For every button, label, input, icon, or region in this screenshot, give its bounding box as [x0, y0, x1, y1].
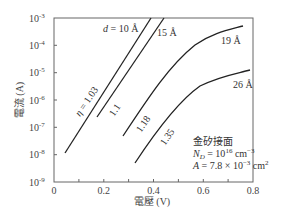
- x-axis-title: 電壓 (V): [134, 196, 170, 208]
- svg-text:10-3: 10-3: [29, 12, 45, 24]
- area-label: A = 7.8 × 10−3 cm2: [192, 159, 269, 171]
- y-tick-labels: 10-3 10-4 10-5 10-6 10-7 10-8 10-9: [29, 12, 45, 188]
- label-d10: d = 10 Å: [103, 23, 139, 34]
- thickness-labels: d = 10 Å 15 Å 19 Å 26 Å: [103, 23, 254, 90]
- label-d15: 15 Å: [157, 27, 178, 38]
- label-eta11: 1.1: [107, 102, 123, 119]
- label-d26: 26 Å: [233, 79, 254, 90]
- label-d19: 19 Å: [221, 35, 242, 46]
- junction-label: 金矽接面: [193, 135, 233, 147]
- svg-text:10-6: 10-6: [29, 94, 45, 106]
- y-axis-title: 電流 (A): [13, 82, 26, 118]
- label-eta135: 1.35: [158, 126, 177, 147]
- svg-text:0: 0: [52, 185, 57, 196]
- svg-text:0.8: 0.8: [247, 185, 260, 196]
- svg-text:10-9: 10-9: [29, 176, 45, 188]
- svg-text:10-8: 10-8: [29, 148, 45, 160]
- svg-text:0.6: 0.6: [197, 185, 210, 196]
- curve-d10: [65, 18, 151, 153]
- iv-chart: 10-3 10-4 10-5 10-6 10-7 10-8 10-9 0 0.2…: [0, 0, 293, 211]
- svg-text:10-7: 10-7: [29, 121, 45, 133]
- info-box: 金矽接面 ND = 1016 cm−3 A = 7.8 × 10−3 cm2: [192, 135, 269, 171]
- label-eta103: η = 1.03: [73, 85, 101, 119]
- svg-text:0.4: 0.4: [147, 185, 160, 196]
- svg-text:10-5: 10-5: [29, 66, 45, 78]
- svg-text:10-4: 10-4: [29, 39, 45, 51]
- x-tick-labels: 0 0.2 0.4 0.6 0.8: [52, 185, 260, 196]
- svg-text:0.2: 0.2: [98, 185, 111, 196]
